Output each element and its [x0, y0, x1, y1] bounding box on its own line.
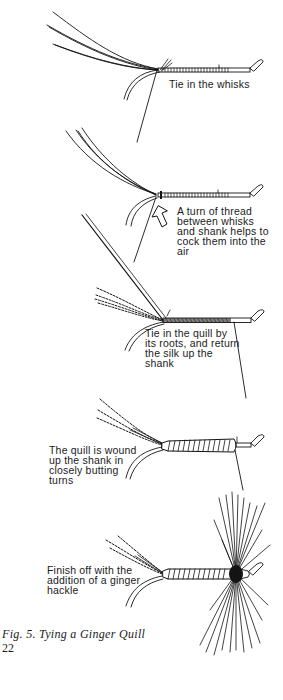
figure-caption: Fig. 5. Tying a Ginger Quill	[2, 627, 145, 642]
step-1-label: Tie in the whisks	[169, 79, 250, 89]
step-4-label: The quill is wound up the shank in close…	[49, 445, 137, 485]
step-3-label: Tie in the quill by its roots, and retur…	[145, 328, 240, 368]
page-number: 22	[2, 641, 14, 656]
step-5-label: Finish off with the addition of a ginger…	[47, 565, 140, 595]
step-1-drawing	[47, 12, 263, 142]
step-2-label: A turn of thread between whisks and shan…	[177, 206, 269, 256]
illustration	[0, 0, 283, 700]
fly-tying-figure: Tie in the whisks A turn of thread betwe…	[0, 0, 283, 700]
